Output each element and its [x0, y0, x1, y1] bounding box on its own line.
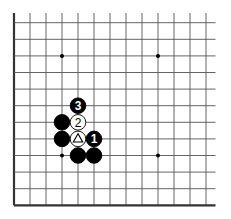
black-stone — [70, 148, 86, 164]
hoshi-point — [156, 154, 160, 158]
board-grid — [14, 13, 216, 205]
white-stone-2: 2 — [70, 115, 86, 131]
stone-disc — [54, 115, 70, 131]
stone-disc — [70, 148, 86, 164]
move-number-label: 3 — [75, 99, 82, 113]
go-board: 321 — [0, 0, 231, 219]
move-number-label: 1 — [91, 132, 98, 146]
hoshi-point — [156, 54, 160, 58]
black-stone — [54, 131, 70, 147]
white-stone — [70, 131, 86, 147]
black-stone — [54, 115, 70, 131]
stone-disc — [54, 131, 70, 147]
stone-disc — [86, 148, 102, 164]
black-stone — [86, 148, 102, 164]
black-stone-3: 3 — [70, 98, 86, 114]
hoshi-point — [60, 154, 64, 158]
hoshi-point — [60, 54, 64, 58]
move-number-label: 2 — [75, 116, 82, 130]
black-stone-1: 1 — [86, 131, 102, 147]
